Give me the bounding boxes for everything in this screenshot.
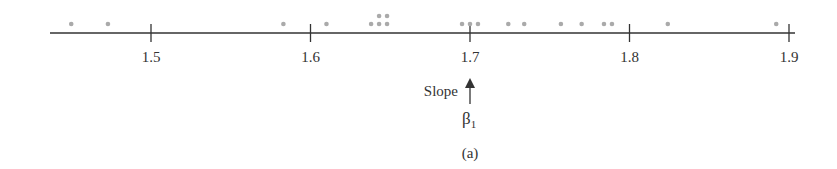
data-point	[385, 14, 390, 19]
data-point	[69, 22, 74, 27]
data-point	[774, 22, 779, 27]
slope-label: Slope	[424, 83, 459, 99]
data-point	[377, 14, 382, 19]
figure-caption: (a)	[462, 145, 479, 162]
data-point	[106, 22, 111, 27]
tick-label: 1.8	[620, 49, 639, 65]
data-point	[506, 22, 511, 27]
data-point	[281, 22, 286, 27]
data-point	[665, 22, 670, 27]
data-point	[476, 22, 481, 27]
data-point	[468, 22, 473, 27]
data-points	[69, 14, 779, 27]
data-point	[559, 22, 564, 27]
x-axis-ticks: 1.51.61.71.81.9	[142, 24, 799, 65]
data-point	[579, 22, 584, 27]
data-point	[522, 22, 527, 27]
data-point	[377, 22, 382, 27]
dot-plot: 1.51.61.71.81.9 Slope β1 (a)	[0, 0, 837, 169]
tick-label: 1.6	[301, 49, 320, 65]
data-point	[602, 22, 607, 27]
data-point	[460, 22, 465, 27]
data-point	[610, 22, 615, 27]
beta-symbol: β1	[462, 109, 476, 130]
data-point	[369, 22, 374, 27]
tick-label: 1.5	[142, 49, 161, 65]
tick-label: 1.7	[461, 49, 480, 65]
arrow-up-icon	[465, 78, 475, 104]
data-point	[324, 22, 329, 27]
data-point	[385, 22, 390, 27]
tick-label: 1.9	[780, 49, 799, 65]
